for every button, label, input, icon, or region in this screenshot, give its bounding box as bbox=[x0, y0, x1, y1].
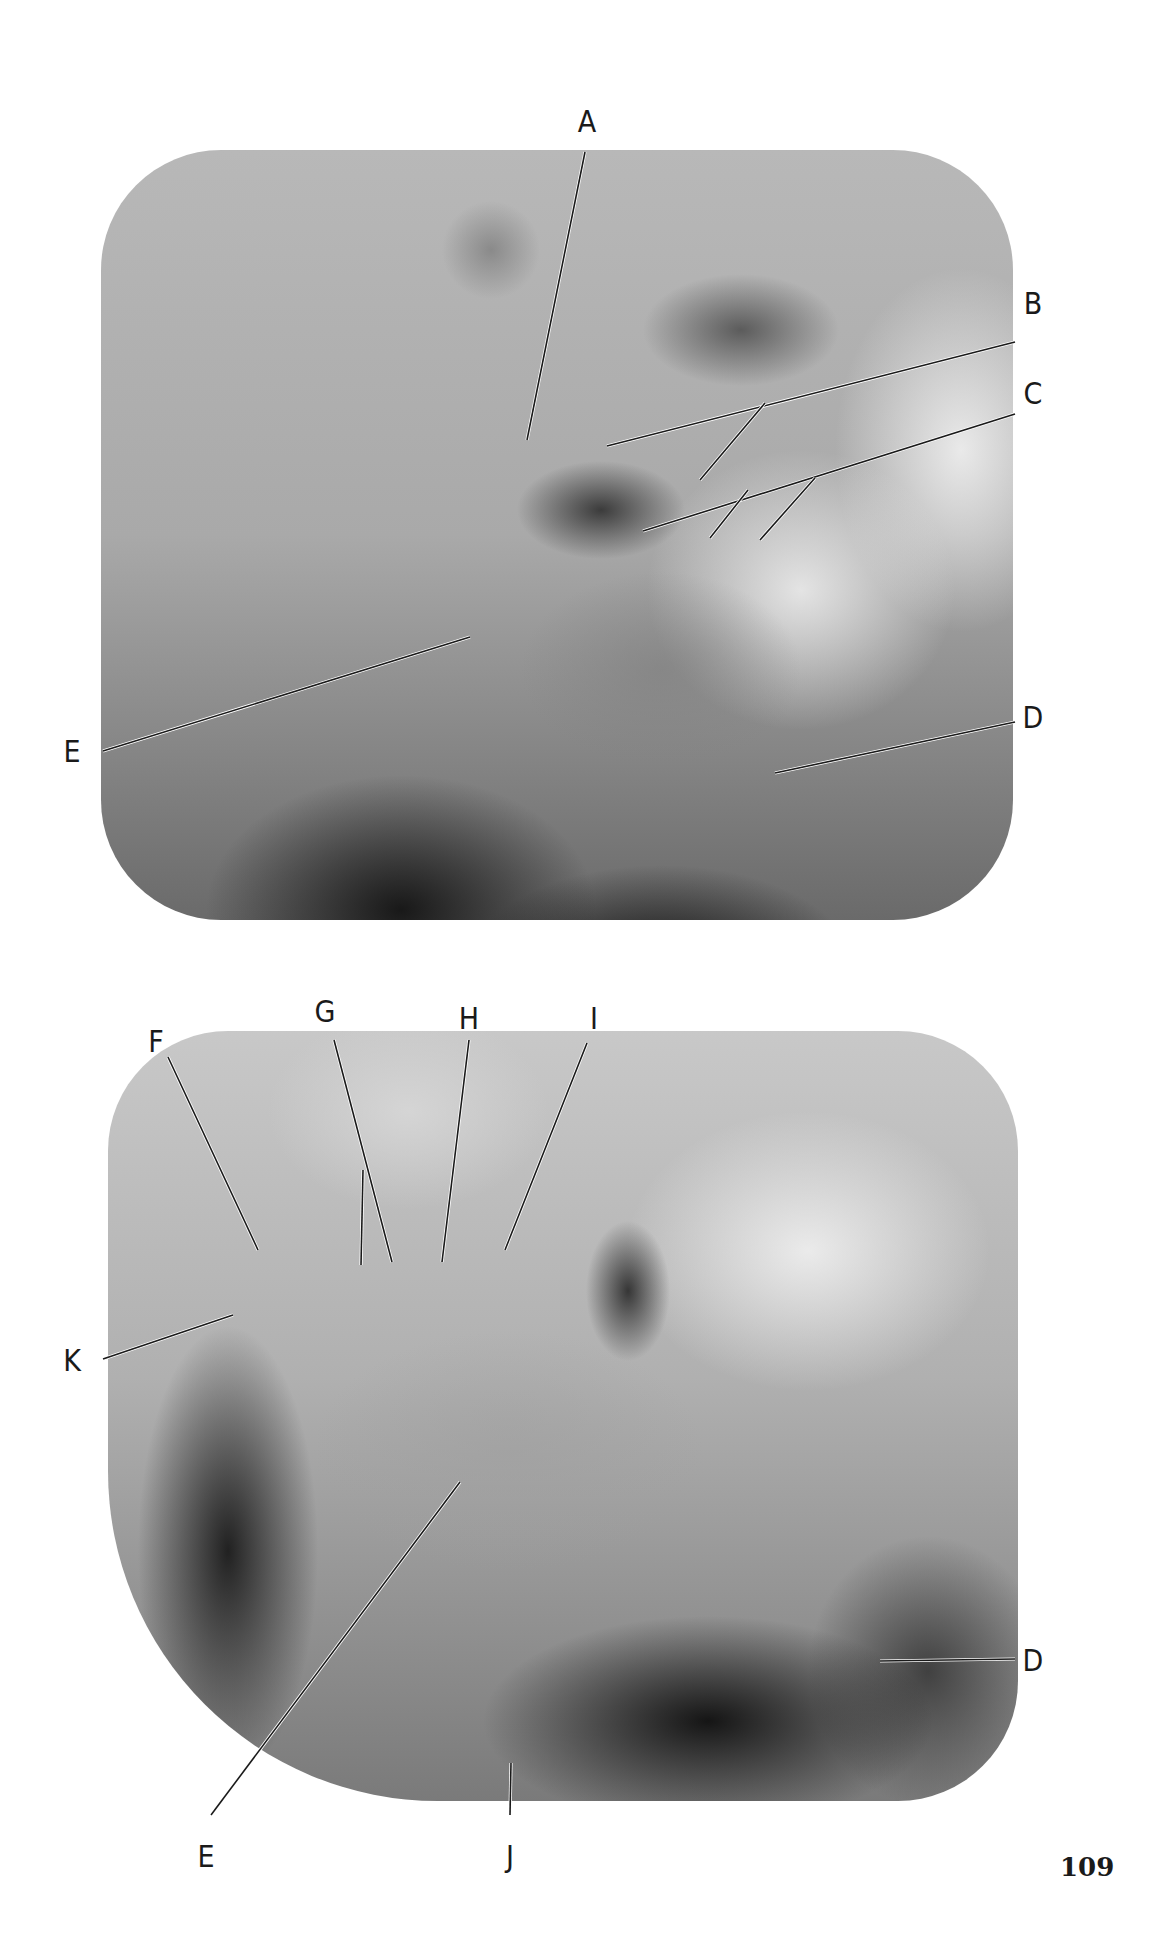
leader-line-top-b bbox=[607, 342, 1015, 446]
leader-line-top-e bbox=[103, 637, 470, 751]
pointer-line-top-1 bbox=[710, 490, 748, 538]
label-top-b: B bbox=[1024, 289, 1043, 319]
label-bottom-d: D bbox=[1023, 1646, 1044, 1676]
label-bottom-j: J bbox=[506, 1842, 514, 1872]
leader-line-bottom-f bbox=[168, 1057, 258, 1250]
label-bottom-i: I bbox=[590, 1004, 598, 1034]
label-top-d: D bbox=[1023, 703, 1044, 733]
leader-line-top-d bbox=[775, 722, 1015, 773]
leader-line-bottom-e bbox=[211, 1482, 460, 1815]
leader-line-top-c bbox=[643, 414, 1015, 531]
leader-lines-layer bbox=[0, 0, 1154, 1933]
pointer-line-top-2 bbox=[760, 478, 815, 540]
page-number: 109 bbox=[1060, 1852, 1114, 1882]
label-top-c: C bbox=[1024, 379, 1043, 409]
leader-line-top-a bbox=[527, 152, 585, 440]
label-bottom-g: G bbox=[315, 997, 336, 1027]
label-bottom-h: H bbox=[459, 1004, 479, 1034]
label-bottom-f: F bbox=[148, 1027, 164, 1057]
leader-line-bottom-i bbox=[505, 1043, 587, 1250]
label-top-a: A bbox=[578, 107, 596, 137]
label-bottom-k: K bbox=[63, 1346, 81, 1376]
leader-line-bottom-j bbox=[510, 1763, 511, 1815]
leader-line-bottom-k bbox=[103, 1315, 233, 1359]
leader-line-bottom-h bbox=[442, 1040, 469, 1262]
label-bottom-e: E bbox=[197, 1842, 214, 1872]
label-top-e: E bbox=[63, 737, 80, 767]
